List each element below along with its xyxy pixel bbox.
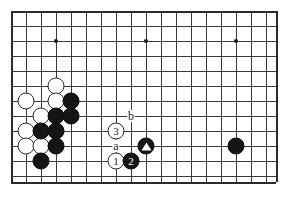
grid-line-vertical (251, 11, 252, 182)
stone-black[interactable] (228, 138, 245, 155)
grid-line-horizontal (11, 26, 276, 27)
grid-line-vertical (146, 11, 147, 182)
grid-line-horizontal (11, 71, 276, 72)
grid-line-vertical (101, 11, 102, 182)
move-stone-3[interactable]: 3 (108, 123, 125, 140)
move-number-label: 2 (124, 154, 139, 169)
grid-line-vertical (11, 11, 13, 182)
stone-black[interactable] (63, 108, 80, 125)
grid-line-vertical (221, 11, 222, 182)
star-point-right (234, 39, 238, 43)
go-board: 312 ba (0, 0, 286, 197)
grid-line-horizontal (11, 161, 276, 162)
triangle-marker-icon (141, 142, 151, 150)
move-number-label: 3 (109, 124, 124, 139)
grid-line-vertical (266, 11, 267, 182)
stone-black[interactable] (48, 138, 65, 155)
grid-line-vertical (206, 11, 207, 182)
stone-white[interactable] (18, 93, 35, 110)
label-b: b (127, 110, 135, 122)
grid-line-vertical (161, 11, 162, 182)
marked-stone-black[interactable] (138, 138, 155, 155)
grid-line-horizontal-bottom-edge (11, 182, 276, 184)
move-number-label: 1 (109, 154, 124, 169)
grid-line-horizontal (11, 176, 276, 177)
star-point-center (144, 39, 148, 43)
stone-black[interactable] (33, 153, 50, 170)
grid-line-horizontal (11, 11, 276, 13)
label-a: a (112, 140, 119, 152)
star-point-left (54, 39, 58, 43)
go-diagram: 312 ba (0, 0, 286, 197)
grid-line-vertical (86, 11, 87, 182)
grid-line-vertical (191, 11, 192, 182)
grid-line-horizontal (11, 56, 276, 57)
grid-line-vertical-right-edge (276, 11, 278, 182)
grid-line-vertical (176, 11, 177, 182)
grid-line-vertical (236, 11, 237, 182)
move-stone-2[interactable]: 2 (123, 153, 140, 170)
